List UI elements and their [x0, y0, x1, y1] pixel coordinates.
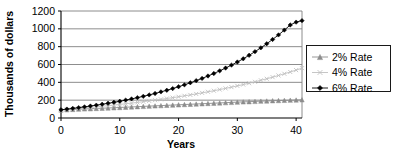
- y-tick-label: 0: [49, 112, 55, 124]
- chart-legend[interactable]: 2% Rate4% Rate6% Rate: [307, 46, 391, 94]
- legend-label: 6% Rate: [332, 82, 372, 94]
- chart-figure: 120010008006004002000 010203040 Thousand…: [0, 0, 394, 161]
- y-tick-label: 1000: [32, 22, 56, 34]
- x-tick-label: 20: [173, 124, 185, 136]
- x-tick-label: 0: [58, 124, 64, 136]
- legend-label: 4% Rate: [332, 66, 372, 78]
- y-tick-label: 800: [37, 40, 55, 52]
- y-axis-title: Thousands of dollars: [3, 11, 15, 117]
- x-axis-title: Years: [167, 138, 195, 150]
- legend-label: 2% Rate: [332, 51, 372, 63]
- x-tick-label: 10: [114, 124, 126, 136]
- y-tick-label: 200: [37, 94, 55, 106]
- y-tick-label: 400: [37, 76, 55, 88]
- y-tick-label: 1200: [32, 5, 56, 17]
- x-tick-label: 30: [231, 124, 243, 136]
- line-chart: 120010008006004002000 010203040 Thousand…: [0, 0, 394, 161]
- x-tick-label: 40: [290, 124, 302, 136]
- y-tick-label: 600: [37, 58, 55, 70]
- legend-items: 2% Rate4% Rate6% Rate: [312, 51, 372, 94]
